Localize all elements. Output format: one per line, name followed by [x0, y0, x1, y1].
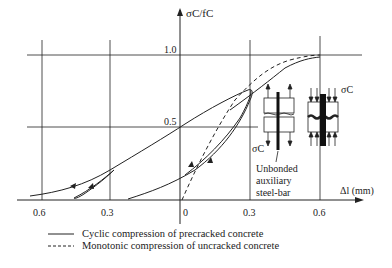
sigma-label-top: σC: [341, 84, 353, 95]
x-tick-0.6: 0.6: [313, 207, 326, 218]
annotation-line-2: auxiliary: [256, 175, 292, 186]
y-axis-label: σC/fC: [186, 8, 213, 19]
x-axis-label: Δl (mm): [340, 185, 374, 196]
sigma-label-bottom: σC: [252, 143, 264, 154]
specimen-precracked-icon: [264, 84, 294, 162]
legend-monotonic: Monotonic compression of uncracked concr…: [82, 240, 279, 252]
loop-arrow-icon: [88, 183, 94, 189]
loop-arrow-icon: [188, 161, 194, 167]
x-axis-arrow-icon: [355, 197, 364, 203]
y-tick-0.5: 0.5: [164, 116, 177, 127]
legend-cyclic: Cyclic compression of precracked concret…: [82, 228, 263, 240]
loop-arrow-icon: [70, 183, 76, 189]
diagram-root: σC/fC 1.0 0.5 0.6 0.3 0 0.3 0.6 Δl (mm) …: [0, 0, 392, 268]
x-tick-0: 0: [183, 207, 188, 218]
y-axis-arrow-icon: [177, 8, 183, 16]
x-tick-0.3-left: 0.3: [101, 207, 114, 218]
y-tick-1.0: 1.0: [164, 44, 177, 55]
specimen-compressed-icon: [308, 88, 338, 146]
monotonic-curve: [182, 55, 320, 200]
annotation-line-3: steel-bar: [256, 187, 290, 198]
x-tick-0.6-left: 0.6: [33, 207, 46, 218]
annotation-line-1: Unbonded: [256, 163, 298, 174]
x-tick-0.3: 0.3: [243, 207, 256, 218]
